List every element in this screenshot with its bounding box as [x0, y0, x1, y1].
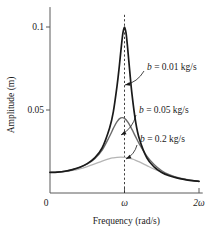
y-axis-title: Amplitude (m) [6, 77, 17, 134]
y-tick-label: 0.05 [27, 105, 44, 115]
annotation-leader-line-0 [125, 71, 144, 85]
y-axis-tick-labels: 0.050.1 [27, 22, 44, 115]
series-curve-b-0-05 [50, 118, 199, 182]
x-tick-label: ω [121, 198, 128, 208]
y-axis-ticks [46, 27, 50, 110]
resonance-curve-figure: 0.050.1 ω2ω 0 Frequency (rad/s) Amplitud… [0, 0, 224, 233]
origin-tick-label: 0 [44, 198, 49, 208]
y-tick-label: 0.1 [32, 22, 44, 32]
x-tick-label: 2ω [193, 198, 205, 208]
x-axis-tick-labels: ω2ω [121, 198, 205, 208]
x-axis-ticks [125, 188, 200, 193]
series-label-2: b = 0.2 kg/s [140, 134, 185, 144]
x-axis-title: Frequency (rad/s) [93, 216, 160, 227]
series-label-0: b = 0.01 kg/s [147, 62, 197, 72]
chart-canvas: 0.050.1 ω2ω 0 Frequency (rad/s) Amplitud… [0, 0, 224, 233]
series-annotations-group: b = 0.01 kg/sb = 0.05 kg/sb = 0.2 kg/s [121, 62, 197, 159]
annotation-leader-line-2 [126, 145, 137, 159]
series-label-1: b = 0.05 kg/s [139, 105, 189, 115]
